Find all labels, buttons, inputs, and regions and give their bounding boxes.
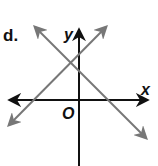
- y-axis-label: y: [64, 27, 73, 43]
- x-axis-label: x: [141, 82, 150, 98]
- ascending-line: [9, 27, 106, 125]
- coordinate-graph: [0, 0, 158, 166]
- origin-label: O: [62, 106, 74, 122]
